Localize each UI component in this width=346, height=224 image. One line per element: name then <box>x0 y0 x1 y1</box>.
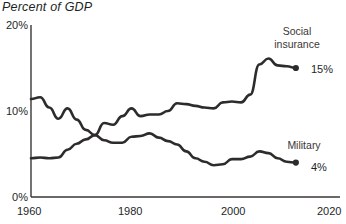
series-label-social-insurance: Social insurance <box>258 25 336 50</box>
y-tick-label-20: 20% <box>0 19 28 31</box>
series-line-social-insurance <box>31 59 296 159</box>
y-tick-label-0: 0% <box>0 191 28 203</box>
end-value-military: 4% <box>311 161 327 173</box>
series-layer <box>31 59 299 166</box>
x-tick-label-1980: 1980 <box>118 205 142 217</box>
x-tick-label-1960: 1960 <box>17 205 41 217</box>
series-endpoint-military <box>293 160 299 166</box>
x-tick-label-2000: 2000 <box>221 205 245 217</box>
series-label-military: Military <box>272 139 336 152</box>
x-tick-label-2020: 2020 <box>317 205 341 217</box>
y-tick-label-10: 10% <box>0 105 28 117</box>
end-value-social-insurance: 15% <box>311 63 333 75</box>
series-label-military-line1: Military <box>287 139 320 151</box>
chart-container: Percent of GDP 20% 10% 0% 1960 1980 2000… <box>0 0 346 224</box>
series-endpoint-social-insurance <box>293 65 299 71</box>
series-label-social-insurance-line1: Social <box>283 25 312 37</box>
axes <box>31 25 340 197</box>
series-label-social-insurance-line2: insurance <box>274 38 320 50</box>
series-line-military <box>31 97 296 165</box>
